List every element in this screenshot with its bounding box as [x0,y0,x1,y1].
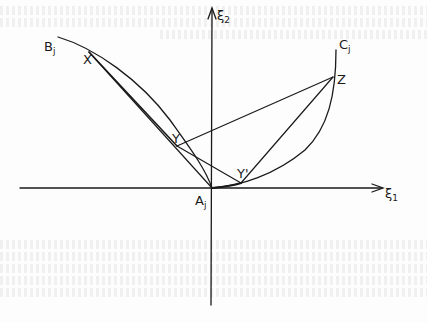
label-y: Y [171,131,180,146]
axis-label-xi2: ξ2 [217,8,230,25]
label-bj: Bj [44,39,55,56]
chord-y-z [177,77,333,146]
label-cj: Cj [339,37,351,54]
vertical-axis [208,8,216,305]
chord-y-yprime [177,146,241,183]
chord-x-aj [89,52,212,188]
figure-canvas: ξ1 ξ2 Bj Cj Aj X Y Y' Z [0,0,427,323]
segment-aj-yprime [212,183,241,188]
axis-label-xi1: ξ1 [385,186,398,203]
curve-left-branch [58,37,212,188]
label-z: Z [337,72,346,87]
horizontal-axis [20,184,383,192]
curve-right-branch [212,50,336,188]
label-aj: Aj [195,193,206,210]
label-yprime: Y' [236,166,249,181]
diagram-svg: ξ1 ξ2 Bj Cj Aj X Y Y' Z [0,0,427,323]
chord-yprime-z [241,77,333,183]
label-x: X [83,52,92,67]
